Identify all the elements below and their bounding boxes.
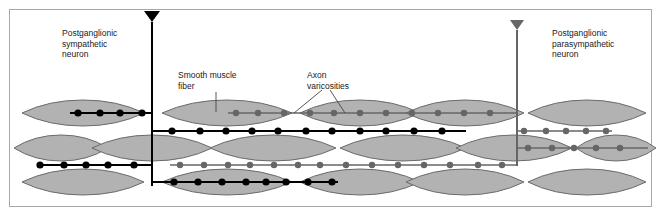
label-postganglionic-sympathetic-neuron: Postganglionic sympathetic neuron: [62, 28, 148, 60]
axon-varicosity-dot-icon: [525, 145, 531, 151]
neuron-trunk-layer: [144, 11, 524, 186]
axon-varicosity-dot-icon: [571, 145, 577, 151]
axon-varicosity-dot-icon: [82, 161, 89, 168]
axon-varicosity-dot-icon: [138, 109, 145, 116]
axon-varicosity-dot-icon: [521, 128, 527, 134]
axon-varicosity-dot-icon: [328, 178, 335, 185]
axon-varicosity-dot-icon: [304, 178, 311, 185]
autonomic-innervation-figure: Postganglionic sympathetic neuron Postga…: [0, 0, 662, 218]
axon-varicosity-dot-icon: [435, 110, 441, 116]
axon-varicosity-dot-icon: [302, 127, 309, 134]
axon-varicosity-dot-icon: [247, 162, 253, 168]
axon-varicosity-dot-icon: [410, 127, 417, 134]
smooth-muscle-fiber: [406, 169, 524, 195]
parasympathetic-neuron-triangle-icon: [510, 20, 524, 30]
axon-varicosity-dot-icon: [225, 162, 231, 168]
axon-varicosity-dot-icon: [317, 162, 323, 168]
axon-varicosity-dot-icon: [295, 162, 301, 168]
axon-varicosity-dot-icon: [331, 110, 337, 116]
axon-varicosity-dot-icon: [218, 178, 225, 185]
axon-varicosity-dot-icon: [307, 110, 313, 116]
axon-varicosity-dot-icon: [271, 162, 277, 168]
axon-varicosity-dot-icon: [281, 110, 287, 116]
axon-varicosity-dot-icon: [274, 127, 281, 134]
axon-varicosity-dot-icon: [201, 162, 207, 168]
label-axon-varicosities: Axon varicosities: [307, 70, 369, 91]
label-postganglionic-parasympathetic-neuron: Postganglionic parasympathetic neuron: [552, 28, 652, 60]
axon-varicosity-dot-icon: [395, 162, 401, 168]
axon-varicosity-dot-icon: [177, 162, 183, 168]
axon-varicosity-dot-icon: [563, 128, 569, 134]
smooth-muscle-fiber: [22, 169, 144, 195]
label-smooth-muscle-fiber: Smooth muscle fiber: [178, 70, 260, 91]
axon-varicosity-dot-icon: [222, 127, 229, 134]
axon-varicosity-dot-icon: [382, 127, 389, 134]
axon-varicosity-dot-icon: [104, 161, 111, 168]
axon-varicosity-dot-icon: [282, 178, 289, 185]
axon-varicosity-dot-icon: [357, 110, 363, 116]
axon-varicosity-dot-icon: [447, 162, 453, 168]
axon-varicosity-dot-icon: [196, 127, 203, 134]
axon-varicosity-dot-icon: [583, 128, 589, 134]
axon-varicosity-dot-icon: [543, 128, 549, 134]
axon-varicosity-dot-icon: [248, 127, 255, 134]
axon-varicosity-dot-icon: [255, 110, 261, 116]
smooth-muscle-fiber: [528, 169, 646, 195]
axon-varicosity-dot-icon: [475, 162, 481, 168]
axon-varicosity-dot-icon: [461, 110, 467, 116]
axon-varicosity-dot-icon: [593, 145, 599, 151]
axon-varicosity-dot-icon: [369, 162, 375, 168]
axon-varicosity-dot-icon: [116, 109, 123, 116]
axon-varicosity-dot-icon: [343, 162, 349, 168]
smooth-muscle-fiber: [340, 135, 466, 161]
axon-varicosity-dot-icon: [499, 162, 505, 168]
axon-varicosity-dot-icon: [60, 161, 67, 168]
axon-varicosity-dot-icon: [617, 145, 623, 151]
smooth-muscle-fiber: [210, 135, 336, 161]
axon-varicosity-dot-icon: [549, 145, 555, 151]
axon-varicosity-dot-icon: [233, 110, 239, 116]
axon-varicosity-dot-icon: [603, 128, 609, 134]
axon-varicosity-dot-icon: [383, 110, 389, 116]
axon-varicosity-dot-icon: [242, 178, 249, 185]
smooth-muscle-fiber: [528, 100, 646, 126]
axon-varicosity-dot-icon: [170, 178, 177, 185]
sympathetic-neuron-triangle-icon: [144, 11, 160, 22]
axon-varicosity-dot-icon: [96, 109, 103, 116]
axon-varicosity-dot-icon: [74, 109, 81, 116]
axon-varicosity-dot-icon: [262, 178, 269, 185]
axon-varicosity-dot-icon: [130, 161, 137, 168]
axon-varicosity-dot-icon: [36, 161, 43, 168]
axon-varicosity-dot-icon: [194, 178, 201, 185]
axon-varicosity-dot-icon: [409, 110, 415, 116]
axon-varicosity-dot-icon: [487, 110, 493, 116]
axon-varicosity-dot-icon: [421, 162, 427, 168]
axon-varicosity-dot-icon: [356, 127, 363, 134]
axon-varicosity-dot-icon: [328, 127, 335, 134]
axon-varicosity-dot-icon: [168, 127, 175, 134]
axon-varicosity-dot-icon: [438, 127, 445, 134]
